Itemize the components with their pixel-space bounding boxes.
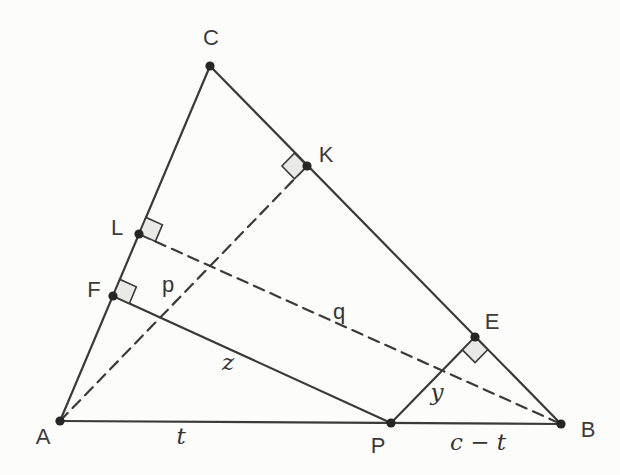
point-dot-K [302, 161, 311, 170]
point-dot-C [205, 61, 214, 70]
point-dot-P [386, 418, 395, 427]
point-dot-B [556, 419, 565, 428]
right-angle-marker-L [139, 217, 162, 241]
measure-label-q: q [333, 299, 345, 324]
point-label-P: P [371, 433, 386, 458]
measure-label-z: z [221, 349, 235, 375]
geometry-figure: ABCPFLKEpqzytc − t [0, 0, 620, 475]
measure-label-y: y [430, 379, 445, 405]
segment-CB [210, 66, 561, 424]
point-dot-F [108, 291, 117, 300]
measure-label-c-t: c − t [450, 429, 507, 455]
point-label-B: B [581, 417, 596, 442]
right-angle-marker-F [113, 279, 136, 303]
point-label-K: K [319, 142, 334, 167]
point-label-F: F [87, 277, 100, 302]
point-label-C: C [203, 25, 219, 50]
point-dot-L [134, 229, 143, 238]
measure-label-p: p [162, 272, 174, 297]
segment-FP [113, 296, 391, 423]
point-label-L: L [111, 215, 123, 240]
point-dot-A [55, 416, 64, 425]
point-label-E: E [485, 309, 500, 334]
segment-AC [60, 66, 210, 421]
segment-AB [60, 421, 561, 424]
measure-label-t: t [176, 423, 186, 449]
point-label-A: A [36, 424, 51, 449]
triangle-diagram-svg: ABCPFLKEpqzytc − t [0, 0, 620, 475]
point-dot-E [470, 332, 479, 341]
